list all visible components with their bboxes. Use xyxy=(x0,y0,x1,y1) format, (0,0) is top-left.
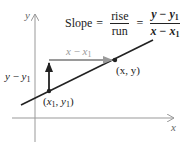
formula-equals-2: = xyxy=(136,16,143,31)
fraction-run: run xyxy=(112,24,128,37)
fraction-rise: rise xyxy=(110,10,129,24)
run-label: x − x1 xyxy=(66,46,92,59)
formula-equals-1: = xyxy=(96,16,103,31)
rise-label: y − y1 xyxy=(5,71,31,84)
point-x-y-label: (x, y) xyxy=(116,65,140,76)
point-x-y xyxy=(113,58,117,62)
point-x1-y1-label: (x1, y1) xyxy=(43,96,74,109)
rise-over-run-fraction: rise run xyxy=(110,10,129,37)
fraction-numerator: y − y1 xyxy=(150,8,180,24)
coordinate-fraction: y − y1 x − x1 xyxy=(150,8,180,39)
slope-formula: Slope = rise run = y − y1 x − x1 xyxy=(65,8,183,39)
y-axis-label: y xyxy=(25,10,30,21)
point-x1-y1 xyxy=(47,89,51,93)
x-axis-label: x xyxy=(171,122,176,133)
fraction-denominator: x − x1 xyxy=(151,24,180,39)
formula-prefix: Slope xyxy=(65,16,92,31)
